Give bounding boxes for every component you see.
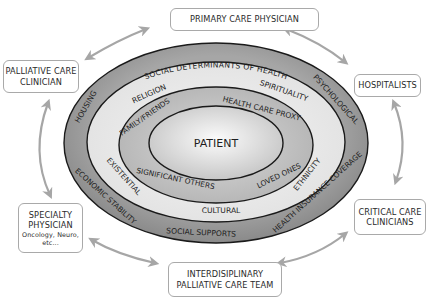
arrow-palliative-to-primary <box>88 29 146 58</box>
node-critical-line2: CLINICIANS <box>366 217 413 228</box>
node-specialty-line3: Oncology, Neuro, <box>22 231 79 239</box>
node-palliative-line2: CLINICIAN <box>20 77 62 88</box>
node-interdisciplinary-team: INTERDISIPLINARY PALLIATIVE CARE TEAM <box>168 262 282 297</box>
arrow-critical-to-interdisciplinary <box>280 234 345 263</box>
patient-centered-care-diagram: PATIENT SOCIAL DETERMINANTS OF HEALTH HO… <box>0 0 433 301</box>
node-hospitalists-label: HOSPITALISTS <box>358 80 417 91</box>
arrow-hospitalists-to-critical <box>394 103 403 181</box>
node-interdisciplinary-line2: PALLIATIVE CARE TEAM <box>177 280 274 291</box>
middle-label-cultural: CULTURAL <box>202 206 241 215</box>
node-hospitalists: HOSPITALISTS <box>354 74 421 97</box>
diagram-canvas: PATIENT SOCIAL DETERMINANTS OF HEALTH HO… <box>0 0 433 301</box>
node-critical-line1: CRITICAL CARE <box>358 207 421 218</box>
patient-label: PATIENT <box>194 137 239 150</box>
node-interdisciplinary-line1: INTERDISIPLINARY <box>187 269 263 280</box>
node-palliative-line1: PALLIATIVE CARE <box>6 66 77 77</box>
node-specialty-physician: SPECIALTY PHYSICIAN Oncology, Neuro, etc… <box>18 203 83 253</box>
node-specialty-line4: etc... <box>42 239 59 247</box>
node-primary-care-physician: PRIMARY CARE PHYSICIAN <box>170 8 319 31</box>
node-primary-care-label: PRIMARY CARE PHYSICIAN <box>190 14 299 25</box>
arrow-interdisciplinary-to-specialty <box>92 240 155 263</box>
node-palliative-care-clinician: PALLIATIVE CARE CLINICIAN <box>3 60 79 93</box>
node-critical-care-clinicians: CRITICAL CARE CLINICIANS <box>354 199 426 235</box>
node-specialty-line1: SPECIALTY <box>29 210 72 221</box>
arrow-specialty-to-palliative <box>39 103 50 195</box>
node-specialty-line2: PHYSICIAN <box>28 220 72 231</box>
